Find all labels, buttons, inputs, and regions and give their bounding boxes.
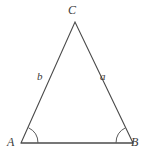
- vertex-label-c: C: [68, 4, 76, 16]
- angle-arc-b: [116, 128, 126, 143]
- triangle-outline: [21, 22, 133, 143]
- triangle-drawing: [0, 0, 146, 158]
- vertex-label-b: B: [131, 136, 139, 148]
- triangle-figure: C A B b a: [0, 0, 146, 158]
- angle-arc-a: [28, 128, 38, 143]
- side-label-b: b: [37, 71, 43, 82]
- vertex-label-a: A: [7, 136, 15, 148]
- side-label-a: a: [100, 71, 106, 82]
